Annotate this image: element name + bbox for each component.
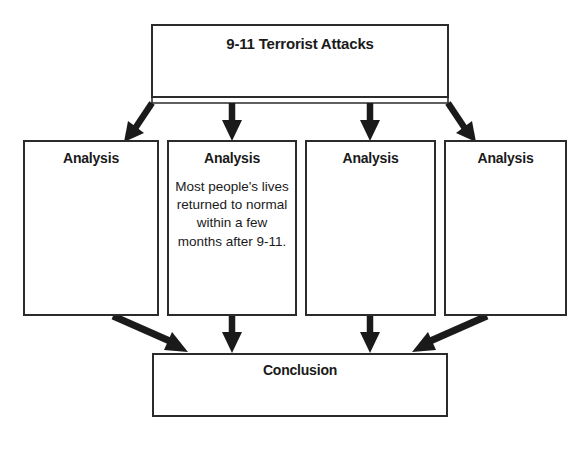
arrow-analysis-4-to-conclusion xyxy=(412,316,487,352)
arrow-analysis-1-to-conclusion xyxy=(113,316,188,352)
node-analysis-3-body xyxy=(307,166,434,178)
node-analysis-2-label: Analysis xyxy=(169,142,295,166)
node-title-attacks-label: 9-11 Terrorist Attacks xyxy=(153,26,447,52)
node-analysis-4-body xyxy=(446,166,565,178)
node-analysis-2-body: Most people's lives returned to normal w… xyxy=(169,166,295,251)
node-analysis-1: Analysis xyxy=(23,140,159,316)
connector-group-top xyxy=(124,97,476,142)
node-conclusion: Conclusion xyxy=(152,353,448,417)
arrow-title-to-analysis-1 xyxy=(124,103,152,142)
arrow-title-to-analysis-4 xyxy=(448,103,476,142)
arrow-title-to-analysis-2 xyxy=(222,103,242,141)
connector-group-bottom xyxy=(113,316,487,353)
node-conclusion-label: Conclusion xyxy=(154,355,446,378)
node-analysis-2: Analysis Most people's lives returned to… xyxy=(167,140,297,316)
node-analysis-1-body xyxy=(25,166,157,178)
node-title-attacks: 9-11 Terrorist Attacks xyxy=(151,24,449,98)
arrow-analysis-3-to-conclusion xyxy=(360,316,380,353)
node-analysis-3-label: Analysis xyxy=(307,142,434,166)
node-analysis-1-label: Analysis xyxy=(25,142,157,166)
flowchart-diagram: 9-11 Terrorist Attacks Analysis Analysis… xyxy=(0,0,588,454)
arrow-title-to-analysis-3 xyxy=(360,103,380,141)
node-analysis-3: Analysis xyxy=(305,140,436,316)
arrow-analysis-2-to-conclusion xyxy=(222,316,242,353)
node-analysis-4-label: Analysis xyxy=(446,142,565,166)
node-analysis-4: Analysis xyxy=(444,140,567,316)
